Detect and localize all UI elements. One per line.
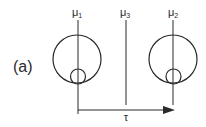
- panel-label: (a): [13, 58, 33, 75]
- diagram-figure: (a) μ1 μ3 μ2 τ: [0, 0, 206, 127]
- mu2-label-sub: 2: [174, 12, 178, 19]
- mu1-label-sub: 1: [78, 12, 82, 19]
- mu3-label: μ3: [120, 6, 130, 19]
- tau-label: τ: [124, 111, 129, 123]
- left-large-circle: [53, 35, 101, 83]
- tau-arrowhead-icon: [163, 106, 175, 114]
- mu1-label: μ1: [72, 6, 82, 19]
- mu2-label: μ2: [168, 6, 178, 19]
- mu3-label-sub: 3: [126, 12, 130, 19]
